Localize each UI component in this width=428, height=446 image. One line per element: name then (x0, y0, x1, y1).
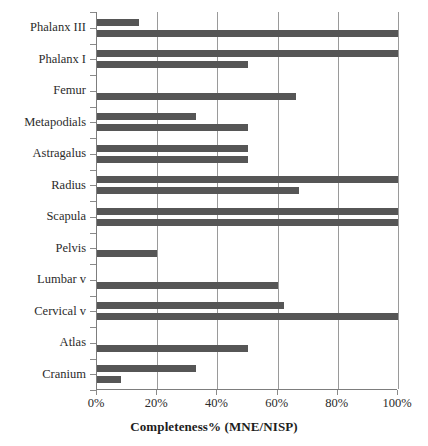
x-axis-tick (216, 390, 217, 395)
bar-group (97, 170, 397, 202)
x-axis-label-40pct: 40% (205, 396, 228, 410)
bar (97, 250, 157, 257)
x-axis: 0%20%40%60%80%100% (96, 390, 397, 416)
y-axis-label-metapodials: Metapodials (24, 116, 86, 129)
x-axis-title: Completeness% (MNE/NISP) (0, 419, 428, 435)
y-axis-label-femur: Femur (53, 84, 86, 97)
x-axis-tick (397, 390, 398, 395)
bar (97, 30, 398, 37)
x-axis-tick (337, 390, 338, 395)
x-axis-label-0pct: 0% (88, 396, 105, 410)
bar-group (97, 327, 397, 359)
completeness-bar-chart: Phalanx IIIPhalanx IFemurMetapodialsAstr… (0, 0, 428, 446)
bar (97, 176, 398, 183)
y-axis-label-phalanx-i: Phalanx I (38, 53, 86, 66)
bar-group (97, 75, 397, 107)
bar (97, 313, 398, 320)
bar-group (97, 138, 397, 170)
bar (97, 50, 398, 57)
y-axis-label-cranium: Cranium (42, 368, 86, 381)
bar (97, 145, 248, 152)
y-axis: Phalanx IIIPhalanx IFemurMetapodialsAstr… (0, 12, 96, 390)
bar (97, 365, 196, 372)
x-axis-tick (96, 390, 97, 395)
y-axis-label-radius: Radius (51, 179, 86, 192)
bar (97, 376, 121, 383)
bar (97, 302, 284, 309)
bar (97, 124, 248, 131)
y-axis-label-cervical-v: Cervical v (34, 305, 86, 318)
bar (97, 208, 398, 215)
bar (97, 156, 248, 163)
y-axis-label-scapula: Scapula (46, 210, 86, 223)
bar (97, 219, 398, 226)
gridline-100pct (398, 12, 399, 389)
x-axis-label-100pct: 100% (382, 396, 411, 410)
bar-group (97, 359, 397, 391)
bar (97, 113, 196, 120)
bar (97, 93, 296, 100)
bar (97, 187, 299, 194)
x-axis-label-80pct: 80% (325, 396, 348, 410)
bar (97, 19, 139, 26)
y-axis-label-lumbar-v: Lumbar v (37, 273, 86, 286)
y-axis-label-phalanx-iii: Phalanx III (30, 21, 86, 34)
bar-group (97, 12, 397, 44)
bar (97, 345, 248, 352)
bar-group (97, 296, 397, 328)
x-axis-tick (156, 390, 157, 395)
y-axis-label-pelvis: Pelvis (55, 242, 86, 255)
bar-group (97, 201, 397, 233)
bar (97, 61, 248, 68)
y-axis-label-atlas: Atlas (60, 336, 86, 349)
x-axis-label-60pct: 60% (265, 396, 288, 410)
bar-group (97, 233, 397, 265)
bar-group (97, 107, 397, 139)
y-axis-label-astragalus: Astragalus (33, 147, 86, 160)
bar-group (97, 44, 397, 76)
bar (97, 282, 278, 289)
bar-group (97, 264, 397, 296)
x-axis-tick (277, 390, 278, 395)
x-axis-label-20pct: 20% (145, 396, 168, 410)
bars-layer (97, 12, 397, 389)
plot-area (96, 12, 397, 390)
